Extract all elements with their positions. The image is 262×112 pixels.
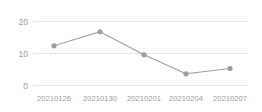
data-point-marker[interactable] (227, 66, 232, 71)
y-tick-label-20: 20 (19, 17, 29, 27)
x-tick-label-2: 20210130 (83, 94, 117, 103)
series-line-path (54, 32, 230, 74)
y-tick-label-0: 0 (23, 81, 28, 91)
x-axis-tick-labels: 20210126 20210130 20210201 20210204 2021… (37, 94, 247, 103)
x-tick-label-3: 20210201 (127, 94, 161, 103)
data-point-marker[interactable] (141, 52, 146, 57)
x-tick-label-4: 20210204 (169, 94, 203, 103)
line-chart: 20 10 0 20210126 20210130 20210201 20210… (0, 0, 262, 112)
x-tick-label-1: 20210126 (37, 94, 71, 103)
y-tick-label-10: 10 (19, 49, 29, 59)
x-tick-label-5: 20210207 (213, 94, 247, 103)
data-point-marker[interactable] (183, 71, 188, 76)
series-group (51, 29, 232, 76)
y-axis-tick-labels: 20 10 0 (19, 17, 29, 91)
data-point-marker[interactable] (51, 43, 56, 48)
chart-canvas: 20 10 0 20210126 20210130 20210201 20210… (0, 0, 262, 112)
data-point-marker[interactable] (97, 29, 102, 34)
